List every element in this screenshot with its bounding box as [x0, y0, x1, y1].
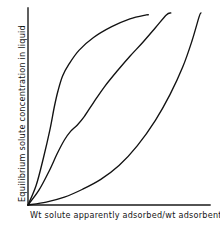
axes-group — [28, 8, 210, 205]
isotherm-curve — [28, 13, 171, 205]
y-axis-label: Equilibrium solute concentration in liqu… — [18, 2, 26, 202]
isotherm-curves-group — [28, 13, 201, 205]
chart-figure: Equilibrium solute concentration in liqu… — [0, 0, 220, 226]
x-axis-label: Wt solute apparently adsorbed/wt adsorbe… — [30, 211, 216, 219]
plot-area — [0, 0, 220, 226]
